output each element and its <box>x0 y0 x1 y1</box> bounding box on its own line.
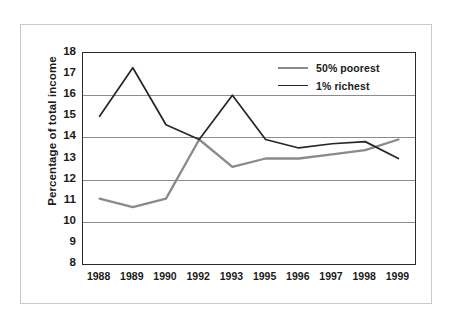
y-axis-tick: 11 <box>46 194 76 206</box>
x-axis-tick-labels: 1988198919901992199319951996199719981999 <box>82 271 414 291</box>
x-axis-tick: 1995 <box>253 271 276 282</box>
legend-item: 50% poorest <box>278 61 380 74</box>
legend-label: 50% poorest <box>316 62 380 74</box>
y-axis-tick: 13 <box>46 152 76 164</box>
y-axis-tick: 18 <box>46 46 76 58</box>
x-axis-tick: 1999 <box>386 271 409 282</box>
y-axis-tick: 14 <box>46 131 76 143</box>
x-axis-tick: 1990 <box>153 271 176 282</box>
plot-area: 50% poorest1% richest <box>82 52 416 265</box>
legend-swatch-richest <box>278 85 308 86</box>
y-axis-tick: 12 <box>46 173 76 185</box>
legend-item: 1% richest <box>278 79 380 92</box>
x-axis-tick: 1998 <box>353 271 376 282</box>
y-axis-tick: 15 <box>46 110 76 122</box>
chart-legend: 50% poorest1% richest <box>278 61 380 97</box>
y-axis-tick: 16 <box>46 88 76 100</box>
legend-label: 1% richest <box>316 80 370 92</box>
y-axis-tick: 17 <box>46 67 76 79</box>
legend-swatch-poorest <box>278 67 308 69</box>
figure-frame: Percentage of total income 1817161514131… <box>20 24 432 304</box>
series-line-poorest <box>100 140 399 208</box>
x-axis-tick: 1996 <box>286 271 309 282</box>
y-axis-tick: 9 <box>46 236 76 248</box>
y-axis-tick-labels: 18171615141312111098 <box>46 52 76 263</box>
x-axis-tick: 1997 <box>319 271 342 282</box>
y-axis-tick: 8 <box>46 257 76 269</box>
x-axis-tick: 1988 <box>87 271 110 282</box>
x-axis-tick: 1989 <box>120 271 143 282</box>
x-axis-tick: 1993 <box>220 271 243 282</box>
y-axis-tick: 10 <box>46 215 76 227</box>
x-axis-tick: 1992 <box>187 271 210 282</box>
